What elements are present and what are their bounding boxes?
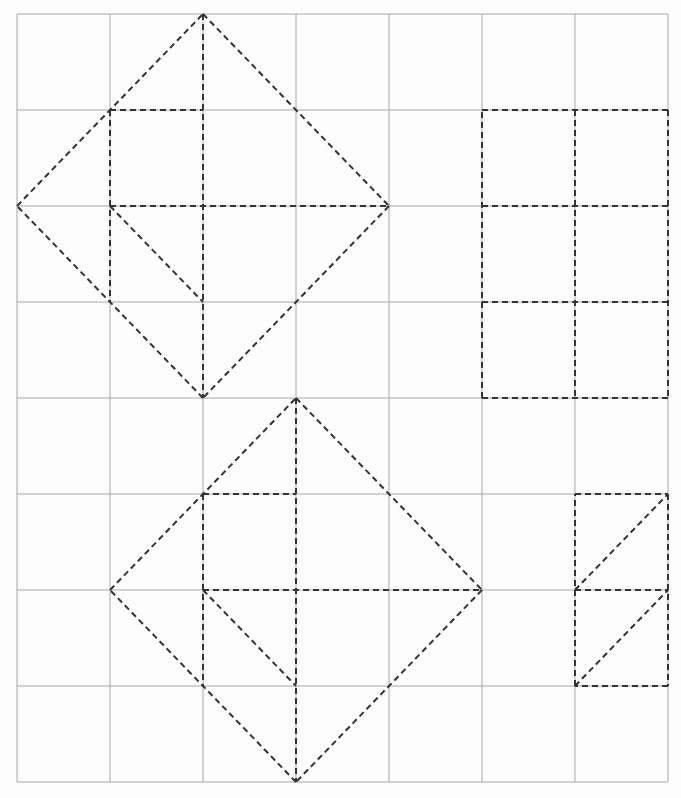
diagram-canvas — [0, 0, 681, 798]
dashed-segment — [575, 494, 668, 590]
dashed-segment — [203, 590, 296, 686]
dashed-segment — [110, 206, 203, 302]
dashed-segment — [575, 590, 668, 686]
right-rectangle-grid — [482, 110, 668, 398]
grid-lines — [17, 14, 668, 782]
grid-diagram — [0, 0, 681, 798]
